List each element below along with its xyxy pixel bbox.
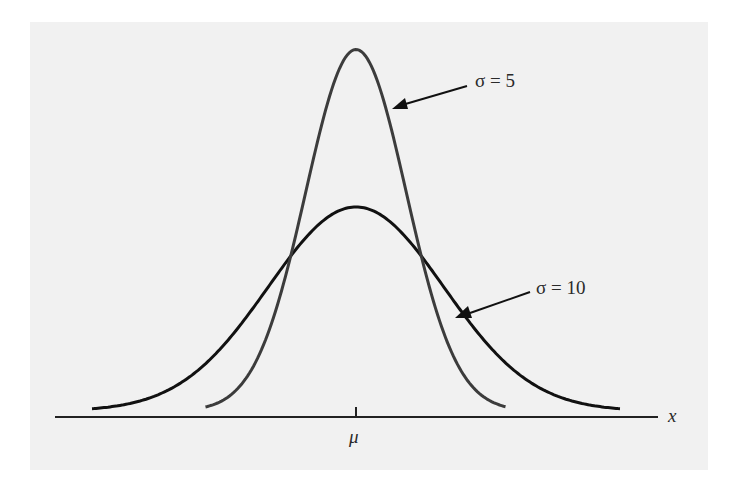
curve-sigma-5 — [206, 50, 506, 408]
label-sigma-10: σ = 10 — [536, 277, 585, 299]
label-sigma-5: σ = 5 — [475, 70, 515, 92]
mean-label: μ — [349, 426, 359, 448]
chart-plot — [0, 0, 742, 483]
arrow-sigma-5 — [392, 86, 467, 109]
curve-sigma-10 — [92, 207, 620, 409]
x-axis-label: x — [668, 405, 676, 427]
arrow-sigma-10 — [455, 292, 530, 318]
